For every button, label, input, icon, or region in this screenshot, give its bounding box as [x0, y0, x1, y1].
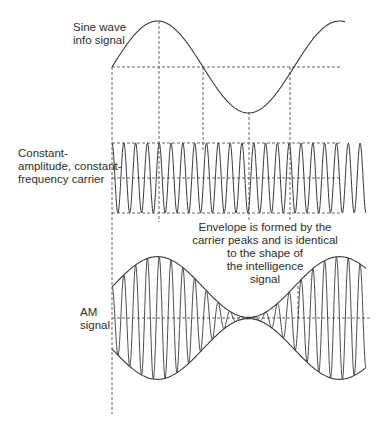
reference-dashed-lines [112, 21, 372, 414]
envelope-annotation-line4: the intelligence [184, 260, 346, 273]
envelope-annotation-line3: to the shape of [184, 247, 346, 260]
envelope-annotation: Envelope is formed by the carrier peaks … [184, 221, 346, 286]
sine-wave-label-line2: info signal [73, 34, 126, 47]
sine-wave-label: Sine wave info signal [73, 21, 126, 47]
carrier-label-line3: frequency carrier [18, 173, 122, 186]
envelope-annotation-line1: Envelope is formed by the [184, 221, 346, 234]
carrier-waveform [112, 143, 366, 213]
carrier-label-line2: amplitude, constant- [18, 160, 122, 173]
am-signal-label-line2: signal [80, 319, 110, 332]
envelope-annotation-line5: signal [184, 273, 346, 286]
carrier-label-line1: Constant- [18, 147, 122, 160]
am-signal-label-line1: AM [80, 306, 110, 319]
envelope-annotation-line2: carrier peaks and is identical [184, 234, 346, 247]
carrier-label: Constant- amplitude, constant- frequency… [18, 147, 122, 186]
am-modulation-diagram [0, 0, 384, 426]
am-signal-label: AM signal [80, 306, 110, 332]
sine-wave-label-line1: Sine wave [73, 21, 126, 34]
